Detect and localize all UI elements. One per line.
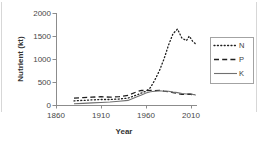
x-axis-title: Year [116, 127, 133, 136]
nutrient-chart-figure: 05001000150020001860191019602010 Nutrien… [0, 0, 258, 146]
y-tick-label-2000: 2000 [33, 9, 51, 18]
plot-area: 05001000150020001860191019602010 [33, 9, 200, 120]
y-tick-label-1500: 1500 [33, 32, 51, 41]
legend-label-n: N [239, 41, 244, 50]
x-tick-label-2010: 2010 [182, 111, 200, 120]
y-tick-label-0: 0 [47, 101, 52, 110]
series-line-n [74, 29, 196, 101]
legend-label-p: P [239, 55, 244, 64]
x-tick-label-1910: 1910 [92, 111, 110, 120]
legend-label-k: K [239, 69, 244, 78]
series-line-p [74, 90, 196, 98]
nutrient-line-chart: 05001000150020001860191019602010 Nutrien… [0, 0, 258, 146]
legend: N P K [211, 38, 254, 84]
y-axis-title: Nutrient (kt) [16, 36, 25, 82]
x-tick-label-1960: 1960 [137, 111, 155, 120]
legend-box [211, 38, 254, 84]
y-tick-label-1000: 1000 [33, 55, 51, 64]
y-tick-label-500: 500 [38, 78, 52, 87]
x-tick-label-1860: 1860 [47, 111, 65, 120]
